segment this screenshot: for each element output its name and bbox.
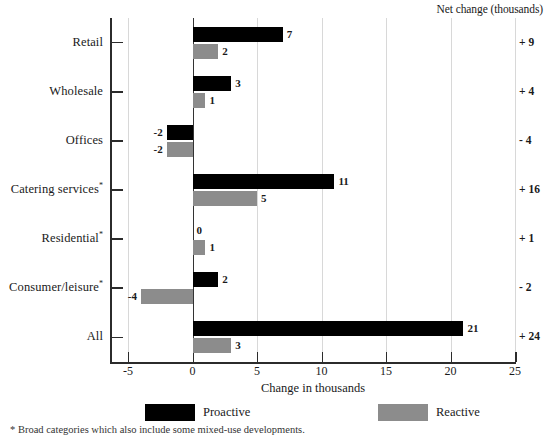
y-axis-tick xyxy=(111,189,123,191)
bar-reactive-catering-services xyxy=(193,191,257,206)
bar-value-proactive-all: 21 xyxy=(467,321,478,336)
x-axis-tick-label: 5 xyxy=(237,364,277,379)
bar-value-reactive-retail: 2 xyxy=(222,44,228,59)
gridline xyxy=(322,18,323,362)
bar-value-proactive-catering-services: 11 xyxy=(338,174,348,189)
category-label-retail: Retail xyxy=(73,35,103,50)
net-change-value-offices: - 4 xyxy=(519,134,531,146)
x-axis-tick-label: 20 xyxy=(431,364,471,379)
bar-proactive-all xyxy=(193,321,464,336)
x-axis-tick xyxy=(128,352,129,362)
net-change-value-catering-services: + 16 xyxy=(519,183,540,195)
zero-axis-line xyxy=(193,18,194,362)
net-change-column-header: Net change (thousands) xyxy=(437,3,543,15)
gridline xyxy=(451,18,452,362)
gridline xyxy=(515,18,516,362)
gridline xyxy=(257,18,258,362)
bar-value-reactive-offices: -2 xyxy=(154,142,163,157)
y-axis-tick xyxy=(111,42,123,44)
x-axis-tick xyxy=(193,352,194,362)
footnote-marker: * xyxy=(99,230,103,239)
footnote: * Broad categories which also include so… xyxy=(10,424,305,435)
y-axis-tick xyxy=(111,287,123,289)
legend-swatch-reactive xyxy=(378,404,428,421)
bar-proactive-catering-services xyxy=(193,174,335,189)
bar-reactive-offices xyxy=(167,142,193,157)
y-axis-tick xyxy=(111,91,123,93)
bar-reactive-retail xyxy=(193,44,219,59)
bar-value-reactive-catering-services: 5 xyxy=(261,191,267,206)
bar-value-proactive-residential: 0 xyxy=(197,223,203,238)
bar-value-reactive-all: 3 xyxy=(235,338,241,353)
bar-reactive-residential xyxy=(193,240,206,255)
net-change-value-all: + 24 xyxy=(519,330,540,342)
footnote-marker: * xyxy=(99,279,103,288)
bar-reactive-consumer-leisure xyxy=(141,289,193,304)
y-axis-tick xyxy=(111,337,123,339)
legend-label-reactive: Reactive xyxy=(436,405,480,420)
plot-area xyxy=(110,18,515,362)
category-label-wholesale: Wholesale xyxy=(49,84,103,99)
category-label-consumer-leisure: Consumer/leisure* xyxy=(9,280,103,295)
bar-value-proactive-retail: 7 xyxy=(287,27,293,42)
x-axis-tick xyxy=(515,352,517,362)
y-axis-tick xyxy=(111,238,123,240)
category-label-residential: Residential* xyxy=(42,231,103,246)
bar-value-proactive-consumer-leisure: 2 xyxy=(222,272,228,287)
x-axis-tick xyxy=(257,352,258,362)
bar-proactive-wholesale xyxy=(193,76,232,91)
x-axis-tick-label: 10 xyxy=(302,364,342,379)
gridline xyxy=(386,18,387,362)
x-axis-tick xyxy=(386,352,387,362)
net-change-value-retail: + 9 xyxy=(519,36,534,48)
x-axis-title: Change in thousands xyxy=(110,381,516,396)
gridline xyxy=(128,18,129,362)
bar-value-reactive-wholesale: 1 xyxy=(209,93,215,108)
x-axis-tick-label: 0 xyxy=(173,364,213,379)
category-label-catering-services: Catering services* xyxy=(11,182,103,197)
bar-reactive-all xyxy=(193,338,232,353)
bar-reactive-wholesale xyxy=(193,93,206,108)
bar-proactive-retail xyxy=(193,27,283,42)
legend-label-proactive: Proactive xyxy=(203,405,250,420)
x-axis-tick-label: 25 xyxy=(495,364,535,379)
bar-value-proactive-offices: -2 xyxy=(154,125,163,140)
x-axis-tick-label: -5 xyxy=(108,364,148,379)
category-label-all: All xyxy=(87,329,103,344)
x-axis-tick-label: 15 xyxy=(366,364,406,379)
bar-proactive-offices xyxy=(167,125,193,140)
net-change-value-residential: + 1 xyxy=(519,232,534,244)
x-axis-tick xyxy=(322,352,323,362)
footnote-marker: * xyxy=(99,181,103,190)
bar-value-proactive-wholesale: 3 xyxy=(235,76,241,91)
y-axis-tick xyxy=(111,140,123,142)
x-axis-tick xyxy=(451,352,452,362)
legend-swatch-proactive xyxy=(145,404,195,421)
category-label-offices: Offices xyxy=(66,133,103,148)
net-change-value-consumer-leisure: - 2 xyxy=(519,281,531,293)
net-change-value-wholesale: + 4 xyxy=(519,85,534,97)
bar-value-reactive-consumer-leisure: -4 xyxy=(128,289,137,304)
bar-proactive-consumer-leisure xyxy=(193,272,219,287)
bar-value-reactive-residential: 1 xyxy=(209,240,215,255)
